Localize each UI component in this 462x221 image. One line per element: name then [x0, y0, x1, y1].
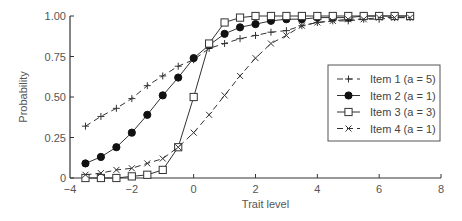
legend-label: Item 3 (a = 3): [370, 106, 436, 118]
y-tick-label: 0.25: [45, 132, 66, 144]
legend: Item 1 (a = 5)Item 2 (a = 1)Item 3 (a = …: [328, 65, 440, 141]
data-point: [222, 92, 228, 98]
data-point: [190, 55, 197, 62]
x-tick-label: 4: [314, 183, 320, 195]
data-point: [159, 92, 166, 99]
data-point: [160, 156, 166, 162]
y-tick-label: 0.75: [45, 51, 66, 63]
item-characteristic-chart: −4−202468 00.250.500.751.00 Trait level …: [0, 0, 462, 221]
data-point: [237, 73, 243, 79]
data-point: [82, 160, 89, 167]
data-point: [159, 72, 166, 79]
data-point: [190, 93, 197, 100]
x-tick-label: −2: [126, 183, 139, 195]
x-tick-label: 8: [438, 183, 444, 195]
data-point: [221, 40, 228, 47]
data-point: [252, 21, 259, 28]
x-tick-label: 6: [376, 183, 382, 195]
data-point: [252, 12, 259, 19]
data-point: [144, 160, 150, 166]
data-point: [82, 174, 89, 181]
data-point: [391, 12, 398, 19]
legend-marker: [345, 108, 352, 115]
y-tick-label: 0.50: [45, 91, 66, 103]
data-point: [298, 12, 305, 19]
legend-label: Item 4 (a = 1): [370, 123, 436, 135]
x-tick-label: −4: [64, 183, 77, 195]
x-tick-label: 2: [252, 183, 258, 195]
data-point: [206, 112, 212, 118]
data-point: [314, 12, 321, 19]
data-point: [144, 111, 151, 118]
data-point: [252, 32, 259, 39]
data-point: [376, 12, 383, 19]
data-point: [144, 171, 151, 178]
data-point: [128, 173, 135, 180]
x-tick-label: 0: [191, 183, 197, 195]
data-point: [221, 30, 228, 37]
data-point: [128, 95, 135, 102]
data-point: [268, 41, 274, 47]
data-point: [360, 12, 367, 19]
legend-label: Item 1 (a = 5): [370, 73, 436, 85]
data-point: [113, 105, 120, 112]
data-point: [82, 123, 89, 130]
y-axis-title: Probability: [17, 71, 29, 123]
data-point: [236, 24, 243, 31]
data-point: [221, 19, 228, 26]
data-point: [113, 174, 120, 181]
legend-label: Item 2 (a = 1): [370, 90, 436, 102]
y-tick-label: 0: [60, 172, 66, 184]
data-point: [236, 14, 243, 21]
legend-marker: [345, 92, 352, 99]
data-point: [267, 29, 274, 36]
data-point: [175, 74, 182, 81]
data-point: [128, 129, 135, 136]
data-point: [97, 153, 104, 160]
data-point: [253, 55, 259, 61]
data-point: [97, 113, 104, 120]
data-point: [206, 40, 213, 47]
data-point: [237, 35, 244, 42]
data-point: [406, 12, 413, 19]
data-point: [345, 12, 352, 19]
data-point: [283, 12, 290, 19]
y-tick-label: 1.00: [45, 10, 66, 22]
data-point: [159, 166, 166, 173]
data-point: [267, 12, 274, 19]
data-point: [175, 63, 182, 70]
data-point: [191, 130, 197, 136]
data-point: [113, 144, 120, 151]
x-axis-title: Trait level: [242, 198, 289, 210]
